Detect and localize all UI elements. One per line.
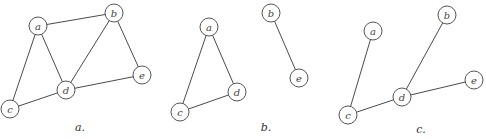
node-label: e bbox=[471, 75, 477, 86]
edge-c-a-c bbox=[348, 31, 373, 115]
edge-a-b-e bbox=[114, 13, 142, 75]
edge-a-a-b bbox=[38, 13, 114, 26]
node-b-c: c bbox=[171, 103, 189, 121]
node-label: b bbox=[111, 8, 117, 19]
node-c-e: e bbox=[465, 71, 483, 89]
node-a-d: d bbox=[57, 81, 75, 99]
caption-a: a. bbox=[75, 121, 85, 134]
node-label: b bbox=[444, 10, 450, 21]
node-c-d: d bbox=[393, 88, 411, 106]
edge-b-a-d bbox=[209, 27, 237, 92]
node-a-b: b bbox=[105, 4, 123, 22]
caption-b: b. bbox=[261, 121, 272, 134]
node-label: c bbox=[7, 104, 13, 115]
node-b-a: a bbox=[200, 18, 218, 36]
captions-layer: a.b.c. bbox=[75, 121, 426, 136]
node-c-c: c bbox=[339, 106, 357, 124]
node-a-c: c bbox=[1, 100, 19, 118]
node-a-a: a bbox=[29, 17, 47, 35]
caption-c: c. bbox=[416, 123, 426, 136]
node-label: d bbox=[234, 87, 240, 98]
node-label: e bbox=[139, 70, 145, 81]
edge-a-b-d bbox=[66, 13, 114, 90]
node-label: d bbox=[63, 85, 69, 96]
edge-a-a-d bbox=[38, 26, 66, 90]
node-label: a bbox=[370, 26, 376, 37]
node-c-b: b bbox=[438, 6, 456, 24]
node-a-e: e bbox=[133, 66, 151, 84]
nodes-layer: abcdeacdbeabcde bbox=[1, 4, 483, 124]
node-b-d: d bbox=[228, 83, 246, 101]
node-label: a bbox=[35, 21, 41, 32]
node-b-e: e bbox=[290, 69, 308, 87]
node-label: d bbox=[399, 92, 405, 103]
node-b-b: b bbox=[262, 4, 280, 22]
node-label: a bbox=[206, 22, 212, 33]
node-label: c bbox=[345, 110, 351, 121]
graph-figure: abcdeacdbeabcde a.b.c. bbox=[0, 0, 486, 139]
edge-a-a-c bbox=[10, 26, 38, 109]
edge-b-a-c bbox=[180, 27, 209, 112]
edge-c-d-e bbox=[402, 80, 474, 97]
node-label: e bbox=[296, 73, 302, 84]
edge-c-b-d bbox=[402, 15, 447, 97]
node-label: c bbox=[177, 107, 183, 118]
edge-b-b-e bbox=[271, 13, 299, 78]
edge-a-d-e bbox=[66, 75, 142, 90]
node-label: b bbox=[268, 8, 274, 19]
node-c-a: a bbox=[364, 22, 382, 40]
